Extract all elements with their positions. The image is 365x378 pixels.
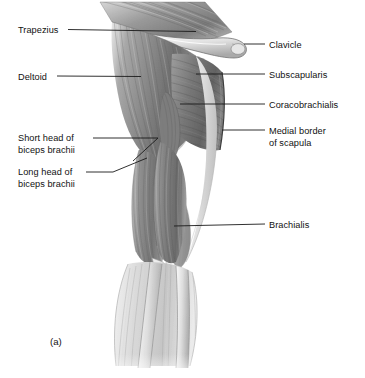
label-trapezius: Trapezius (18, 25, 58, 37)
label-long-head-line-1: Long head of (18, 167, 75, 179)
label-short-head-line-2: biceps brachii (18, 145, 75, 157)
leader-deltoid (57, 76, 141, 77)
label-trapezius-line-1: Trapezius (18, 25, 58, 37)
label-coracobrachialis-line-1: Coracobrachialis (269, 100, 338, 112)
anatomy-figure: Trapezius Deltoid Short head of biceps b… (0, 0, 365, 378)
label-long-head-line-2: biceps brachii (18, 179, 75, 191)
label-short-head-of-biceps-brachii: Short head of biceps brachii (18, 133, 75, 156)
label-deltoid: Deltoid (18, 72, 47, 84)
label-medial-border-line-1: Medial border (269, 126, 326, 138)
figure-letter: (a) (50, 336, 62, 347)
label-brachialis-line-1: Brachialis (269, 220, 309, 232)
label-coracobrachialis: Coracobrachialis (269, 100, 338, 112)
label-medial-border-of-scapula: Medial border of scapula (269, 126, 326, 149)
label-subscapularis-line-1: Subscapularis (269, 70, 327, 82)
label-short-head-line-1: Short head of (18, 133, 75, 145)
label-subscapularis: Subscapularis (269, 70, 327, 82)
label-long-head-of-biceps-brachii: Long head of biceps brachii (18, 167, 75, 190)
label-brachialis: Brachialis (269, 220, 309, 232)
label-clavicle-line-1: Clavicle (269, 40, 302, 52)
label-clavicle: Clavicle (269, 40, 302, 52)
label-deltoid-line-1: Deltoid (18, 72, 47, 84)
label-medial-border-line-2: of scapula (269, 138, 326, 150)
forearm (100, 262, 220, 378)
